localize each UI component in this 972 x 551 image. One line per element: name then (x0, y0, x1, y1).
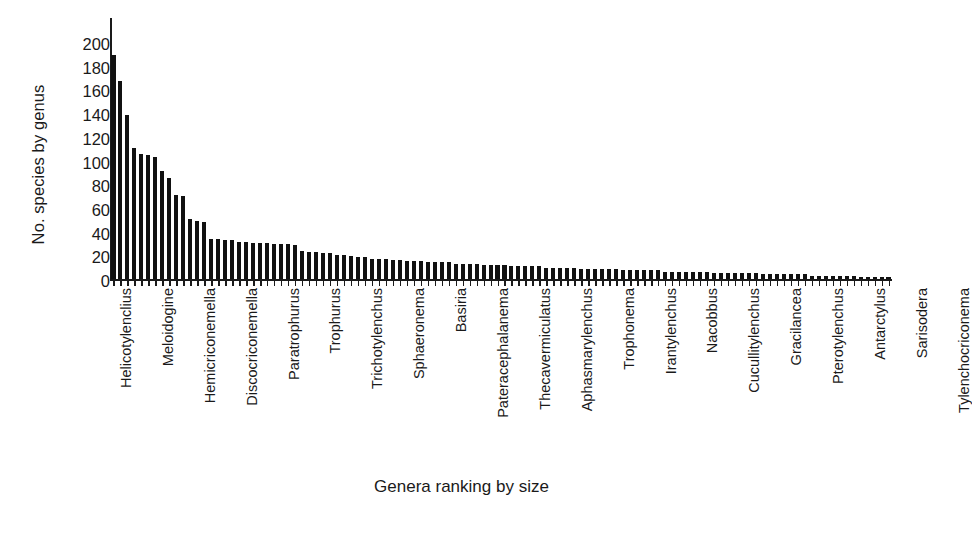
bar (188, 219, 192, 279)
bar (433, 262, 437, 279)
bar (314, 252, 318, 279)
x-tick-mark (498, 281, 499, 286)
bar (719, 273, 723, 280)
bar (831, 276, 835, 280)
x-tick-mark (840, 281, 841, 286)
x-tick-mark (686, 281, 687, 286)
bar (677, 272, 681, 280)
y-tick-label-200: 200 (58, 36, 110, 53)
bar (670, 272, 674, 280)
bar (167, 178, 171, 280)
x-tick-mark (190, 281, 191, 286)
x-tick-mark (393, 281, 394, 286)
bar (307, 252, 311, 279)
y-tick-label-60: 60 (58, 202, 110, 219)
x-tick-mark (777, 281, 778, 286)
x-tick-mark (435, 281, 436, 286)
bar (111, 55, 115, 279)
bar (866, 277, 870, 280)
x-tick-mark (539, 281, 540, 286)
x-category-label: Gracilancea (789, 288, 804, 365)
bar (146, 155, 150, 279)
bar (873, 277, 877, 280)
x-tick-mark (889, 281, 890, 286)
bar (649, 270, 653, 279)
bar (342, 255, 346, 280)
bar (810, 276, 814, 280)
bar (237, 242, 241, 280)
bar (286, 244, 290, 279)
y-tick-label-140: 140 (58, 107, 110, 124)
x-tick-mark (288, 281, 289, 286)
bar (684, 272, 688, 280)
x-tick-mark (819, 281, 820, 286)
x-tick-mark (630, 281, 631, 286)
y-tick-label-180: 180 (58, 59, 110, 76)
x-tick-mark (351, 281, 352, 286)
x-tick-mark (337, 281, 338, 286)
x-tick-mark (504, 281, 505, 286)
x-tick-mark (260, 281, 261, 286)
x-tick-mark (623, 281, 624, 286)
bar (852, 276, 856, 280)
x-axis-title: Genera ranking by size (0, 477, 923, 497)
x-tick-mark (316, 281, 317, 286)
y-tick-label-80: 80 (58, 178, 110, 195)
bar (726, 273, 730, 280)
x-tick-mark (281, 281, 282, 286)
x-category-label: Nacobbus (705, 288, 720, 353)
x-category-label: Pterotylenchus (831, 288, 846, 384)
bar (272, 244, 276, 279)
x-tick-mark (113, 281, 114, 286)
x-tick-mark (344, 281, 345, 286)
bar (300, 251, 304, 280)
x-tick-mark (176, 281, 177, 286)
bar (335, 255, 339, 280)
bar (747, 273, 751, 280)
x-category-label: Hemicriconemella (203, 288, 218, 403)
bar (572, 268, 576, 280)
bar (544, 268, 548, 280)
bar (181, 196, 185, 280)
bar (782, 274, 786, 279)
bar (740, 273, 744, 280)
bar (600, 269, 604, 279)
x-category-label: Helicotylenclius (119, 288, 134, 388)
x-tick-mark (470, 281, 471, 286)
x-tick-mark (735, 281, 736, 286)
x-tick-mark (875, 281, 876, 286)
x-tick-mark (442, 281, 443, 286)
bar (838, 276, 842, 280)
x-category-label: Sarisodera (915, 288, 930, 358)
x-tick-mark (421, 281, 422, 286)
x-tick-mark (197, 281, 198, 286)
x-tick-mark (798, 281, 799, 286)
x-category-label: Antarctylus (873, 288, 888, 360)
x-tick-mark (518, 281, 519, 286)
x-tick-mark (742, 281, 743, 286)
bar (468, 264, 472, 280)
bar (216, 239, 220, 279)
bar (579, 269, 583, 279)
x-tick-mark (414, 281, 415, 286)
bar-series (110, 18, 892, 279)
bar (551, 268, 555, 280)
x-tick-mark (511, 281, 512, 286)
bar (461, 264, 465, 280)
y-axis-title: No. species by genus (29, 45, 48, 285)
bar (118, 81, 122, 279)
bar (509, 266, 513, 279)
bar (265, 243, 269, 280)
x-category-label: Sphaeronema (412, 288, 427, 379)
x-tick-mark (232, 281, 233, 286)
x-category-label: Tylenchocriconema (957, 288, 972, 413)
x-tick-mark (833, 281, 834, 286)
bar (845, 276, 849, 280)
x-tick-mark (141, 281, 142, 286)
x-tick-mark (246, 281, 247, 286)
x-tick-mark (127, 281, 128, 286)
x-category-label: Trophurus (328, 288, 343, 354)
x-category-label: Trichotylenchus (370, 288, 385, 389)
x-category-label: Discocriconemella (245, 288, 260, 406)
